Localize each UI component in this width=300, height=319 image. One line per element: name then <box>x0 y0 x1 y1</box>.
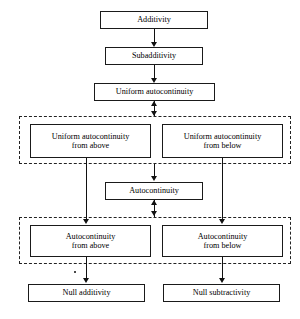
line-2: from above <box>72 241 110 250</box>
node-subadditivity[interactable]: Subadditivity <box>105 47 203 65</box>
node-autocontinuity-label: Autocontinuity <box>106 186 202 195</box>
edge-uniform-above-to-autocontinuity-above <box>86 158 87 220</box>
arrowhead-autocontinuity-above-to-null-additivity <box>83 278 89 283</box>
arrowhead-up-autocontinuity-group <box>151 200 157 205</box>
node-autocontinuity-from-below[interactable]: Autocontinuity from below <box>162 225 283 257</box>
scan-artifact-speck <box>74 271 76 273</box>
arrowhead-uniform-above-to-autocontinuity-above <box>83 219 89 224</box>
arrowhead-down-uniform-autocontinuity-group <box>151 111 157 116</box>
node-uniform-autocontinuity-from-below-label: Uniform autocontinuity from below <box>163 132 282 150</box>
line-1: Autocontinuity <box>198 232 248 241</box>
arrowhead-down-autocontinuity-group <box>151 211 157 216</box>
flowchart-diagram: Additivity Subadditivity Uniform autocon… <box>0 0 300 319</box>
node-null-additivity[interactable]: Null additivity <box>28 284 145 302</box>
arrowhead-uniform-group-to-autocontinuity <box>151 176 157 181</box>
node-uniform-autocontinuity[interactable]: Uniform autocontinuity <box>94 83 215 101</box>
line-1: Uniform autocontinuity <box>184 132 262 141</box>
node-subadditivity-label: Subadditivity <box>106 51 202 60</box>
line-2: from below <box>204 141 242 150</box>
node-autocontinuity[interactable]: Autocontinuity <box>105 182 203 200</box>
node-null-subtractivity-label: Null subtractivity <box>164 288 279 297</box>
node-null-additivity-label: Null additivity <box>29 288 144 297</box>
node-additivity-label: Additivity <box>101 15 207 24</box>
node-autocontinuity-from-below-label: Autocontinuity from below <box>163 232 282 250</box>
line-2: from below <box>204 241 242 250</box>
node-autocontinuity-from-above-label: Autocontinuity from above <box>31 232 150 250</box>
node-uniform-autocontinuity-from-above-label: Uniform autocontinuity from above <box>31 132 150 150</box>
arrowhead-additivity-to-subadditivity <box>151 42 157 47</box>
node-uniform-autocontinuity-from-above[interactable]: Uniform autocontinuity from above <box>30 124 151 158</box>
edge-autocontinuity-below-to-null-subtractivity <box>222 257 223 279</box>
node-uniform-autocontinuity-from-below[interactable]: Uniform autocontinuity from below <box>162 124 283 158</box>
node-additivity[interactable]: Additivity <box>100 11 208 29</box>
edge-uniform-below-to-autocontinuity-below <box>222 158 223 220</box>
line-1: Uniform autocontinuity <box>52 132 130 141</box>
arrowhead-autocontinuity-below-to-null-subtractivity <box>219 278 225 283</box>
edge-subadditivity-to-uniform-autocontinuity <box>154 65 155 78</box>
edge-autocontinuity-above-to-null-additivity <box>86 257 87 279</box>
arrowhead-up-uniform-autocontinuity-group <box>151 101 157 106</box>
node-null-subtractivity[interactable]: Null subtractivity <box>163 284 280 302</box>
node-uniform-autocontinuity-label: Uniform autocontinuity <box>95 87 214 96</box>
edge-additivity-to-subadditivity <box>154 29 155 43</box>
arrowhead-uniform-below-to-autocontinuity-below <box>219 219 225 224</box>
arrowhead-subadditivity-to-uniform-autocontinuity <box>151 78 157 83</box>
node-autocontinuity-from-above[interactable]: Autocontinuity from above <box>30 225 151 257</box>
line-1: Autocontinuity <box>66 232 116 241</box>
line-2: from above <box>72 141 110 150</box>
